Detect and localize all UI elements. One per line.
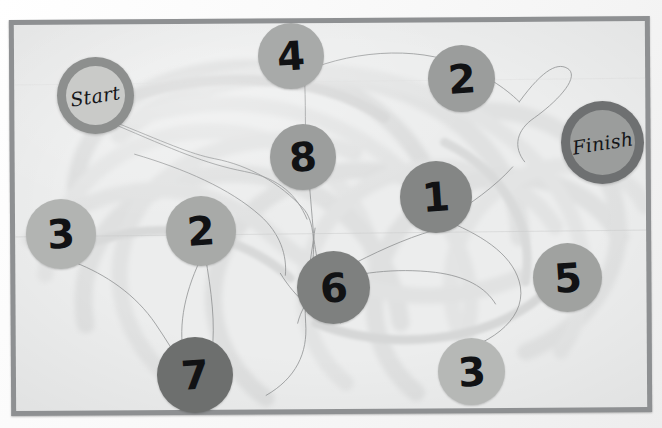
token-label: 1 [421,176,452,218]
marker-start[interactable]: Start [57,57,134,134]
token-8[interactable]: 8 [270,124,336,190]
token-label: 7 [180,354,211,396]
token-1[interactable]: 1 [400,161,472,233]
screenshot-root: Start Finish 4 2 8 1 3 2 6 5 7 3 [0,0,662,428]
marker-finish[interactable]: Finish [561,101,644,184]
token-label: 5 [552,257,583,299]
token-3-bottom[interactable]: 3 [438,338,505,405]
token-label: 3 [456,351,487,393]
token-2-middle-left[interactable]: 2 [166,196,236,266]
token-2-upper-right[interactable]: 2 [428,45,495,112]
token-7[interactable]: 7 [157,337,233,413]
token-label: 3 [46,213,77,255]
token-6[interactable]: 6 [297,251,370,324]
token-label: 2 [186,210,217,252]
token-4[interactable]: 4 [258,23,324,89]
token-3-left[interactable]: 3 [26,199,96,269]
token-label: 2 [446,58,477,100]
token-5[interactable]: 5 [533,243,602,312]
token-label: 8 [288,136,319,178]
token-label: 4 [276,35,307,77]
token-label: 6 [318,267,349,309]
